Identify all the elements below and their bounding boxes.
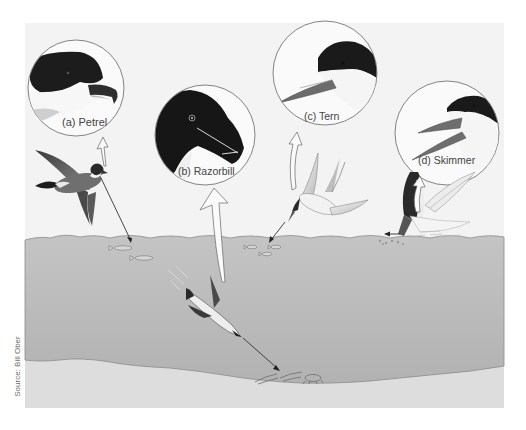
label-petrel: (a) Petrel: [62, 116, 107, 128]
label-tern: (c) Tern: [304, 110, 340, 122]
label-razorbill: (b) Razorbill: [178, 165, 235, 177]
image-credit: Source: Bill Ober: [13, 332, 22, 402]
label-skimmer: (d) Skimmer: [418, 154, 476, 166]
seabird-feeding-diagram: (a) Petrel (b) Razorbill: [0, 0, 526, 430]
skimmer-head-inset: [395, 81, 500, 185]
